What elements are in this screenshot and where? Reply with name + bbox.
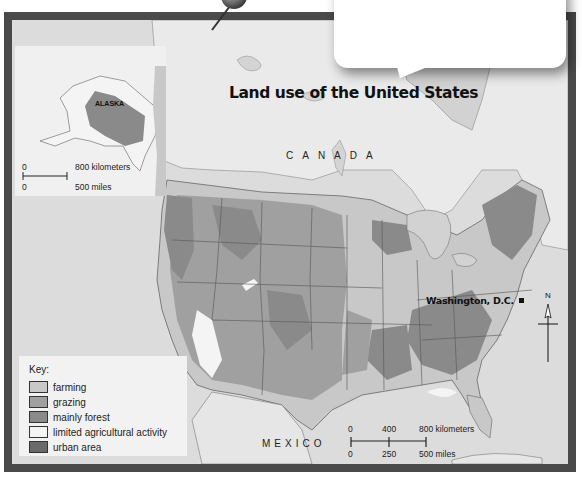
alaska-inset: ALASKA 0 800 kilometers 0 500 miles bbox=[15, 46, 166, 196]
inset-scale-mi-max: 500 miles bbox=[75, 182, 111, 192]
inset-scale-km-zero: 0 bbox=[22, 162, 27, 172]
pushpin-icon bbox=[208, 0, 258, 42]
scale-km-800: 800 kilometers bbox=[419, 424, 474, 434]
legend-item-limited: limited agricultural activity bbox=[29, 425, 167, 439]
compass-north-label: N bbox=[545, 291, 551, 300]
capital-marker-icon bbox=[519, 298, 524, 303]
inset-scale-mi-zero: 0 bbox=[22, 182, 27, 192]
legend-swatch bbox=[29, 411, 48, 423]
legend-item-farming: farming bbox=[29, 380, 86, 394]
legend-swatch bbox=[29, 396, 48, 408]
legend-item-grazing: grazing bbox=[29, 395, 86, 409]
scale-mi-0: 0 bbox=[348, 449, 353, 459]
legend-label: urban area bbox=[53, 442, 101, 453]
limited-agriculture-region bbox=[427, 388, 457, 397]
map-legend: Key: farming grazing mainly forest limit… bbox=[19, 356, 187, 456]
legend-swatch bbox=[29, 381, 48, 393]
callout-bubble bbox=[334, 0, 566, 68]
mexico-label: MEXICO bbox=[262, 438, 325, 449]
canada-label: CANADA bbox=[286, 150, 382, 161]
legend-label: limited agricultural activity bbox=[53, 427, 167, 438]
legend-label: mainly forest bbox=[53, 412, 110, 423]
alaska-map bbox=[15, 46, 166, 196]
scale-mi-250: 250 bbox=[382, 449, 396, 459]
legend-label: farming bbox=[53, 382, 86, 393]
map-area[interactable]: ALASKA 0 800 kilometers 0 500 miles Land… bbox=[12, 20, 568, 464]
capital-label: Washington, D.C. bbox=[426, 295, 514, 306]
legend-swatch bbox=[29, 426, 48, 438]
map-title: Land use of the United States bbox=[229, 84, 478, 102]
legend-swatch bbox=[29, 441, 48, 453]
scale-mi-500: 500 miles bbox=[419, 449, 455, 459]
legend-item-urban: urban area bbox=[29, 440, 101, 454]
cuba bbox=[452, 453, 542, 464]
legend-label: grazing bbox=[53, 397, 86, 408]
compass-icon bbox=[538, 304, 558, 364]
legend-item-forest: mainly forest bbox=[29, 410, 110, 424]
scale-km-0: 0 bbox=[348, 424, 353, 434]
scale-km-400: 400 bbox=[382, 424, 396, 434]
alaska-label: ALASKA bbox=[95, 100, 124, 107]
inset-scale-km-max: 800 kilometers bbox=[75, 162, 130, 172]
map-frame: ALASKA 0 800 kilometers 0 500 miles Land… bbox=[4, 12, 576, 472]
main-scale-bar bbox=[351, 437, 426, 447]
legend-title: Key: bbox=[29, 364, 49, 375]
